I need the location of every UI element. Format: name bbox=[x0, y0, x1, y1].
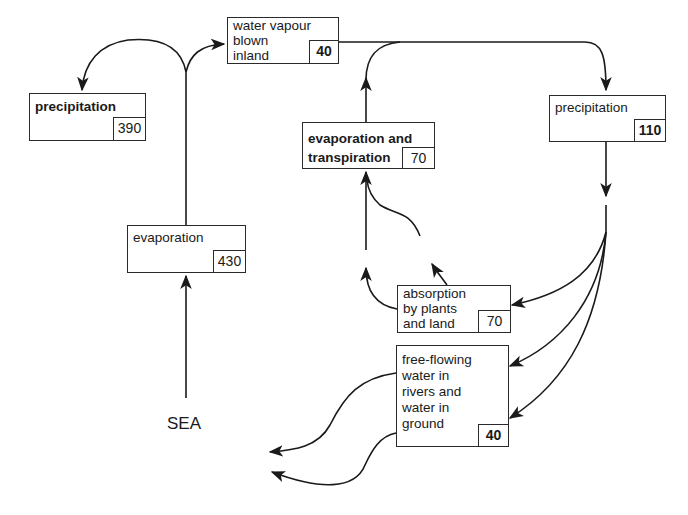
node-value: 390 bbox=[113, 117, 146, 141]
node-value: 40 bbox=[309, 40, 339, 64]
node-value: 70 bbox=[402, 147, 435, 169]
node-value: 40 bbox=[478, 424, 509, 447]
node-label: water vapour blown inland bbox=[233, 18, 311, 63]
node-precipitation-land: precipitation 110 bbox=[549, 95, 666, 142]
arrow-absorption-to-vertical bbox=[366, 268, 397, 309]
arrow-evaporation-to-water-vapour bbox=[186, 44, 224, 72]
arrow-absorption-up-right bbox=[432, 264, 447, 285]
node-water-vapour: water vapour blown inland 40 bbox=[227, 17, 339, 64]
node-value: 110 bbox=[634, 119, 666, 142]
node-label: absorption by plants and land bbox=[403, 286, 466, 331]
node-value: 70 bbox=[478, 310, 511, 333]
arrow-evaporation-to-precipitation bbox=[82, 39, 186, 90]
node-label: precipitation bbox=[35, 99, 116, 114]
node-precipitation-sea: precipitation 390 bbox=[29, 93, 146, 141]
node-label: evaporation and transpiration bbox=[308, 129, 412, 167]
arrow-freeflowing-to-sea-2 bbox=[272, 433, 396, 485]
sea-label: SEA bbox=[167, 414, 201, 434]
arrow-freeflowing-to-sea-1 bbox=[270, 373, 396, 452]
arrow-precipitation-to-absorption bbox=[512, 232, 606, 305]
node-evaporation-sea: evaporation 430 bbox=[127, 225, 246, 273]
node-label: precipitation bbox=[555, 100, 628, 115]
arrow-precipitation-to-freeflowing-2 bbox=[510, 232, 606, 418]
node-label: evaporation bbox=[133, 230, 204, 245]
arrow-precipitation-to-freeflowing-1 bbox=[510, 232, 606, 366]
node-free-flowing: free-flowing water in rivers and water i… bbox=[396, 345, 509, 447]
flow-arrows bbox=[0, 0, 688, 515]
node-value: 430 bbox=[213, 250, 246, 273]
node-label: free-flowing water in rivers and water i… bbox=[402, 352, 472, 432]
node-evapotranspiration: evaporation and transpiration 70 bbox=[302, 122, 435, 169]
node-absorption: absorption by plants and land 70 bbox=[397, 285, 511, 333]
